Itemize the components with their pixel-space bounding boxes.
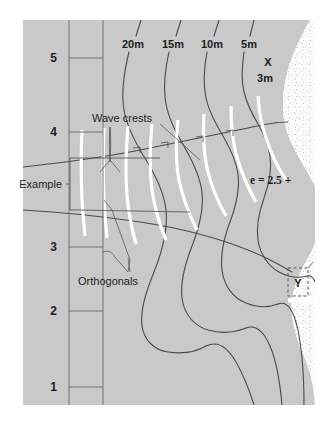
example-label: Example xyxy=(19,178,62,190)
y-scale-bar xyxy=(288,298,324,303)
wave-crests-label: Wave crests xyxy=(92,112,153,124)
point-y-label: Y xyxy=(294,277,302,289)
scale-tick-5: 5 xyxy=(50,51,57,65)
scale-tick-2: 2 xyxy=(50,304,57,318)
scale-tick-1: 1 xyxy=(50,380,57,394)
refraction-diagram-svg: 5 4 3 2 1 Example Wave crests Orthogonal… xyxy=(0,0,333,426)
energy-annotation: e = 2.5 + xyxy=(250,174,291,186)
point-x-label: X xyxy=(264,56,272,68)
scale-tick-4: 4 xyxy=(50,125,57,139)
contour-label-10m: 10m xyxy=(201,38,223,50)
scale-tick-3: 3 xyxy=(50,240,57,254)
wave-refraction-figure: 5 4 3 2 1 Example Wave crests Orthogonal… xyxy=(0,0,333,426)
depth-3m-label: 3m xyxy=(257,72,273,84)
contour-label-20m: 20m xyxy=(122,38,144,50)
contour-label-5m: 5m xyxy=(241,38,257,50)
orthogonals-label: Orthogonals xyxy=(78,275,138,287)
contour-label-15m: 15m xyxy=(162,38,184,50)
